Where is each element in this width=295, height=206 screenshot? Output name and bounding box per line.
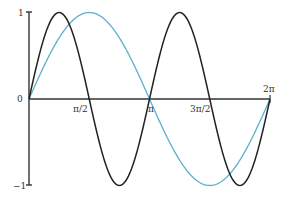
x-label-2pi: 2π [263, 84, 275, 94]
chart: 1 0 −1 π/2 π 3π/2 2π [0, 0, 295, 206]
x-label-pi: π [148, 104, 154, 114]
y-label-neg1: −1 [13, 181, 26, 191]
x-label-3pi-half: 3π/2 [190, 104, 210, 114]
y-label-1: 1 [18, 8, 24, 18]
y-label-0: 0 [17, 94, 23, 104]
x-label-pi-half: π/2 [73, 104, 88, 114]
